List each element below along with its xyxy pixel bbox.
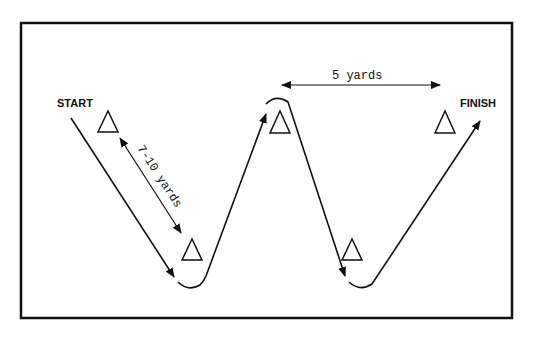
diagonal-distance-label: 7-10 yards [134, 143, 185, 211]
cone-icon [270, 111, 290, 133]
w-drill-diagram: START FINISH 5 yards 7-10 yards [0, 0, 560, 355]
finish-label: FINISH [460, 97, 496, 109]
start-label: START [57, 97, 93, 109]
horizontal-distance-label: 5 yards [332, 69, 382, 83]
diagram-frame [21, 23, 512, 318]
cone-icon [98, 111, 118, 132]
cone-icon [182, 239, 202, 260]
running-path [71, 98, 480, 287]
cone-icon [342, 239, 362, 260]
cone-icon [435, 111, 455, 133]
